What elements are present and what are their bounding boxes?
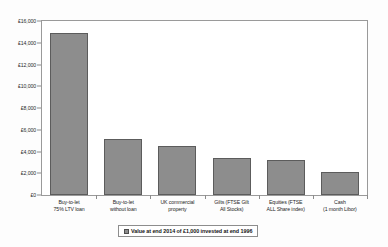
x-axis-category-label: Equities (FTSEALL Share index) bbox=[259, 199, 313, 212]
bar-slot bbox=[213, 21, 251, 195]
x-axis-category-label: Gilts (FTSE GiltAll Stocks) bbox=[205, 199, 259, 212]
legend-swatch-icon bbox=[124, 229, 129, 234]
y-axis-tick-mark bbox=[37, 86, 41, 87]
x-axis-category-line: Gilts (FTSE Gilt bbox=[205, 199, 259, 206]
y-axis-tick-label: £8,000 bbox=[21, 105, 36, 111]
x-axis-category-line: Buy-to-let bbox=[42, 199, 96, 206]
x-axis-category-label: Buy-to-let75% LTV loan bbox=[42, 199, 96, 212]
x-axis-category-label: Buy-to-letwithout loan bbox=[96, 199, 150, 212]
y-axis-tick-label: £16,000 bbox=[18, 18, 36, 24]
bar[interactable] bbox=[104, 139, 142, 195]
y-axis-tick-label: £6,000 bbox=[21, 127, 36, 133]
y-axis-tick-label: £14,000 bbox=[18, 40, 36, 46]
y-axis-tick-mark bbox=[37, 129, 41, 130]
y-axis-tick-label: £4,000 bbox=[21, 149, 36, 155]
x-axis-category-line: Buy-to-let bbox=[96, 199, 150, 206]
y-axis-tick-label: £12,000 bbox=[18, 62, 36, 68]
y-axis-tick-label: £2,000 bbox=[21, 170, 36, 176]
bar[interactable] bbox=[267, 160, 305, 195]
bar[interactable] bbox=[50, 33, 88, 195]
x-axis-tick-mark bbox=[367, 195, 368, 199]
x-axis-category-line: All Stocks) bbox=[205, 206, 259, 213]
bar-slot bbox=[321, 21, 359, 195]
x-axis-category-line: UK commercial bbox=[150, 199, 204, 206]
y-axis-tick-mark bbox=[37, 64, 41, 65]
y-axis-tick-mark bbox=[37, 21, 41, 22]
x-axis-category-label: UK commercialproperty bbox=[150, 199, 204, 212]
x-axis-category-line: (1 month Libor) bbox=[313, 206, 367, 213]
y-axis-tick-mark bbox=[37, 108, 41, 109]
legend-label: Value at end 2014 of £1,000 invested at … bbox=[131, 228, 252, 234]
y-axis-tick-mark bbox=[37, 42, 41, 43]
y-axis-tick-mark bbox=[37, 151, 41, 152]
bar-slot bbox=[267, 21, 305, 195]
chart-legend: Value at end 2014 of £1,000 invested at … bbox=[118, 225, 258, 237]
y-axis: £16,000£14,000£12,000£10,000£8,000£6,000… bbox=[0, 20, 41, 196]
x-axis-category-line: ALL Share index) bbox=[259, 206, 313, 213]
y-axis-tick-mark bbox=[37, 195, 41, 196]
y-axis-tick-label: £10,000 bbox=[18, 83, 36, 89]
x-axis-category-line: Equities (FTSE bbox=[259, 199, 313, 206]
x-axis: Buy-to-let75% LTV loanBuy-to-letwithout … bbox=[42, 199, 367, 223]
x-axis-category-line: Cash bbox=[313, 199, 367, 206]
bar[interactable] bbox=[213, 158, 251, 195]
bar-slot bbox=[158, 21, 196, 195]
bar-slot bbox=[104, 21, 142, 195]
bar[interactable] bbox=[158, 146, 196, 195]
bar-chart-figure: £16,000£14,000£12,000£10,000£8,000£6,000… bbox=[0, 0, 388, 247]
x-axis-category-line: without loan bbox=[96, 206, 150, 213]
x-axis-category-line: 75% LTV loan bbox=[42, 206, 96, 213]
bar-slot bbox=[50, 21, 88, 195]
x-axis-category-label: Cash(1 month Libor) bbox=[313, 199, 367, 212]
x-axis-category-line: property bbox=[150, 206, 204, 213]
bars-layer bbox=[42, 21, 367, 195]
bar[interactable] bbox=[321, 172, 359, 195]
y-axis-tick-label: £0 bbox=[30, 192, 36, 198]
y-axis-tick-mark bbox=[37, 173, 41, 174]
